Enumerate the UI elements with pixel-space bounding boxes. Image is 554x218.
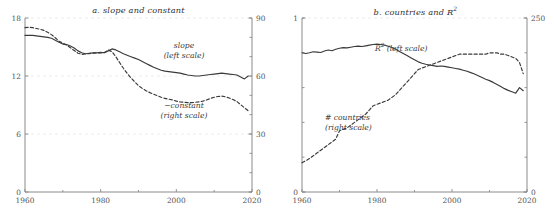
x-tick-label: 1960 — [16, 196, 35, 205]
series-label-slope-line-2: (left scale) — [164, 51, 205, 61]
y-tick-label-right: 0 — [531, 188, 536, 197]
x-tick-label: 2020 — [243, 196, 262, 205]
y-tick-label-right: 250 — [531, 14, 545, 23]
series-label-minus-constant: −constant(right scale) — [161, 101, 208, 120]
series-label-minus-constant-line-2: (right scale) — [161, 111, 208, 121]
y-tick-label-left: 18 — [12, 14, 21, 23]
y-tick-label-right: 0 — [256, 188, 261, 197]
x-tick-label: 1980 — [91, 196, 110, 205]
series-label-r2: R2 (left scale) — [375, 41, 427, 53]
x-tick-label: 1980 — [368, 196, 387, 205]
y-tick-label-left: 0 — [293, 188, 298, 197]
series-label-r2-line-1: R2 (left scale) — [375, 41, 427, 53]
y-tick-label-left: 1 — [293, 14, 298, 23]
series-line--countries — [302, 53, 523, 163]
panel-b-countries-and-r2: b. countries and R2 19601980200020200102… — [277, 0, 554, 218]
series-label-num-countries-line-1: # countries — [325, 113, 372, 123]
y-tick-label-right: 90 — [256, 14, 265, 23]
y-tick-label-left: 12 — [12, 72, 21, 81]
series-line--constant — [25, 27, 248, 111]
y-tick-label-left: 6 — [16, 130, 21, 139]
series-label-slope: slope(left scale) — [164, 41, 205, 60]
panel-a-slope-and-constant: a. slope and constant 196019802000202006… — [0, 0, 277, 218]
series-label-num-countries-line-2: (right scale) — [325, 123, 372, 133]
y-tick-label-right: 60 — [256, 72, 265, 81]
x-tick-label: 2020 — [518, 196, 537, 205]
y-tick-label-left: 0 — [16, 188, 21, 197]
figure-panels-container: a. slope and constant 196019802000202006… — [0, 0, 554, 218]
series-line-slope — [25, 35, 248, 79]
series-label-num-countries: # countries(right scale) — [325, 113, 372, 132]
panel-b-plot — [277, 0, 554, 218]
x-tick-label: 1960 — [293, 196, 312, 205]
series-label-slope-line-1: slope — [164, 41, 205, 51]
x-tick-label: 2000 — [167, 196, 186, 205]
series-label-minus-constant-line-1: −constant — [161, 101, 208, 111]
panel-a-plot — [0, 0, 277, 218]
y-tick-label-right: 30 — [256, 130, 265, 139]
x-tick-label: 2000 — [443, 196, 462, 205]
